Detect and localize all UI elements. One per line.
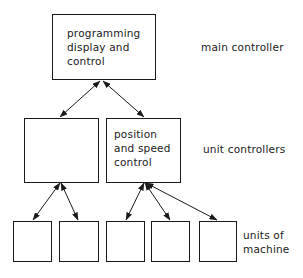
machine-unit-2 xyxy=(59,221,99,262)
arrow-unitleft-m1 xyxy=(33,183,60,220)
arrow-main-unit-right xyxy=(103,81,144,117)
arrow-main-unit-left xyxy=(60,81,100,117)
arrow-unitright-m5 xyxy=(146,183,217,220)
machine-unit-3 xyxy=(106,221,145,262)
unit-controller-left-box xyxy=(24,118,99,183)
main-controller-box: programming display and control xyxy=(52,14,156,80)
machine-unit-1 xyxy=(13,221,52,262)
level-label-unit-controllers: unit controllers xyxy=(203,142,285,156)
unit-controller-right-box: position and speed control xyxy=(106,118,181,183)
level-label-units-of-machine: units of machine xyxy=(243,228,290,256)
arrow-unitright-m3 xyxy=(126,183,144,220)
machine-unit-5 xyxy=(199,221,237,262)
arrow-unitleft-m2 xyxy=(61,183,78,220)
main-controller-text: programming display and control xyxy=(67,26,141,68)
level-label-main-controller: main controller xyxy=(201,40,284,54)
machine-unit-4 xyxy=(151,221,190,262)
unit-controller-right-text: position and speed control xyxy=(114,127,171,169)
